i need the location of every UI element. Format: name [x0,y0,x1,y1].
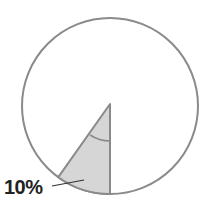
slice-percent-label: 10% [4,176,43,199]
pie-svg [0,0,214,205]
